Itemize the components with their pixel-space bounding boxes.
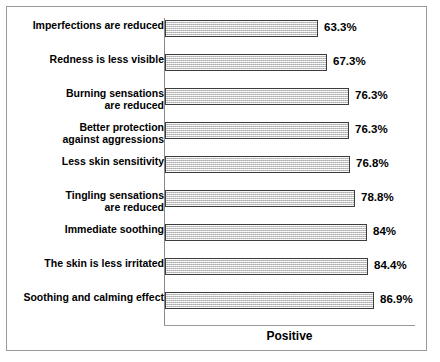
bar-row: Tingling sensations are reduced 78.8% xyxy=(7,190,428,224)
bar-category-label: Soothing and calming effect xyxy=(14,292,164,304)
bar-row: Imperfections are reduced 63.3% xyxy=(7,20,428,54)
bar-rect xyxy=(165,156,350,173)
bar-rect xyxy=(165,292,374,309)
bar-row: Better protection against aggressions 76… xyxy=(7,122,428,156)
bar-row: Soothing and calming effect 86.9% xyxy=(7,292,428,326)
bar-rect xyxy=(165,20,318,37)
bar-value-label: 63.3% xyxy=(324,21,357,33)
bar-row: The skin is less irritated 84.4% xyxy=(7,258,428,292)
bar-rect xyxy=(165,258,368,275)
bar-value-label: 84.4% xyxy=(374,259,407,271)
bar-rect xyxy=(165,224,367,241)
chart-frame: Imperfections are reduced 63.3% Redness … xyxy=(6,6,427,351)
bar-rect xyxy=(165,88,349,105)
bar-category-label: The skin is less irritated xyxy=(14,258,164,270)
bar-row: Immediate soothing 84% xyxy=(7,224,428,258)
bar-row: Burning sensations are reduced 76.3% xyxy=(7,88,428,122)
plot-area: Imperfections are reduced 63.3% Redness … xyxy=(7,7,428,352)
bar-value-label: 76.3% xyxy=(355,89,388,101)
bar-value-label: 67.3% xyxy=(333,55,366,67)
bar-row: Less skin sensitivity 76.8% xyxy=(7,156,428,190)
bar-value-label: 86.9% xyxy=(380,293,413,305)
bar-value-label: 84% xyxy=(373,225,396,237)
bar-value-label: 76.8% xyxy=(356,157,389,169)
bar-category-label: Imperfections are reduced xyxy=(14,20,164,32)
bar-value-label: 76.3% xyxy=(355,123,388,135)
bar-row: Redness is less visible 67.3% xyxy=(7,54,428,88)
bar-category-label: Burning sensations are reduced xyxy=(14,88,164,111)
bar-category-label: Redness is less visible xyxy=(14,54,164,66)
value-axis-title: Positive xyxy=(164,329,415,343)
bar-rect xyxy=(165,190,355,207)
bar-category-label: Less skin sensitivity xyxy=(14,156,164,168)
bar-category-label: Immediate soothing xyxy=(14,224,164,236)
bar-category-label: Better protection against aggressions xyxy=(14,122,164,145)
bar-rect xyxy=(165,54,327,71)
bar-value-label: 78.8% xyxy=(361,191,394,203)
bar-category-label: Tingling sensations are reduced xyxy=(14,190,164,213)
bar-rect xyxy=(165,122,349,139)
